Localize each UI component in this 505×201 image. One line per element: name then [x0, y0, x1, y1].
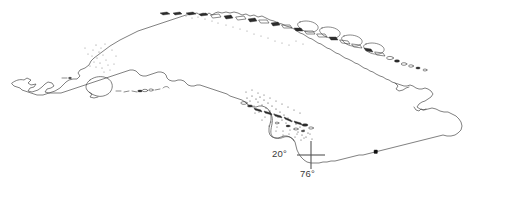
stipple-north-central-coast [186, 16, 304, 46]
north-key-cluster [320, 27, 341, 38]
occurrence-markers [374, 150, 377, 153]
south-key [286, 125, 290, 127]
south-key [247, 105, 252, 107]
canarreos-key [149, 89, 153, 91]
north-key [259, 20, 269, 23]
north-key [199, 13, 208, 16]
cuba-main-island [12, 12, 462, 163]
archipielago-de-los-canarreos [62, 77, 169, 92]
north-key [160, 12, 170, 15]
south-key [302, 124, 308, 127]
cuba-north-east-bays [395, 83, 409, 91]
north-key [401, 63, 407, 66]
north-key [394, 60, 399, 62]
longitude-label: 76° [300, 168, 315, 179]
cuba-coastline-path [12, 12, 462, 163]
south-key [309, 127, 314, 129]
south-key [294, 121, 302, 125]
canarreos-key [155, 89, 160, 90]
north-key [224, 15, 233, 19]
south-key [264, 111, 272, 115]
latitude-label: 20° [272, 148, 287, 159]
north-key [271, 22, 280, 26]
canarreos-key [138, 90, 143, 92]
north-key [416, 67, 420, 69]
graticule-crosshair [297, 141, 325, 169]
map-canvas [0, 0, 505, 201]
canarreos-key [132, 91, 137, 92]
map-figure: 20° 76° [0, 0, 505, 201]
canarreos-key [68, 77, 71, 78]
south-key [254, 108, 262, 112]
archipielago-de-sabana-camaguey [160, 12, 427, 71]
north-key [409, 65, 414, 67]
isla-de-la-juventud [86, 77, 112, 98]
north-key [364, 48, 373, 52]
north-key [423, 69, 427, 71]
canarreos-key [124, 91, 129, 92]
north-key [236, 16, 246, 20]
canarreos-key [142, 89, 148, 91]
south-key [275, 122, 279, 124]
north-key [173, 12, 182, 15]
north-key [211, 14, 221, 18]
stipple-western-cuba [85, 44, 117, 73]
record-point-south-oriente [374, 150, 377, 153]
canarreos-key [163, 87, 169, 89]
isla-juventud-outline [86, 77, 112, 97]
north-key [387, 56, 394, 59]
north-key [248, 18, 257, 22]
